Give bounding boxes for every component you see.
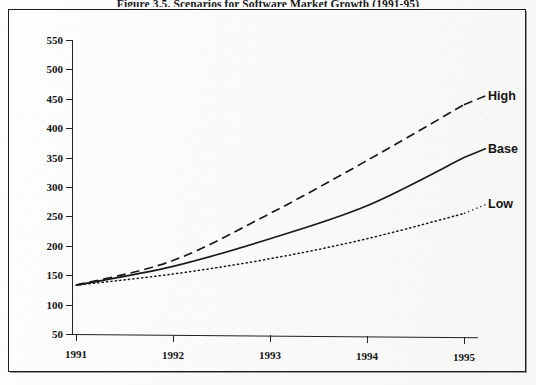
y-tick-label: 500: [47, 63, 64, 75]
x-tick-label: 1992: [162, 349, 184, 361]
y-tick: [66, 334, 72, 335]
x-tick-label: 1991: [65, 348, 87, 360]
x-tick: [270, 335, 271, 342]
series-lines: [72, 40, 478, 334]
y-tick-label: 200: [47, 240, 64, 252]
y-tick-label: 100: [47, 299, 64, 311]
x-tick: [173, 335, 174, 342]
y-tick-label: 50: [52, 328, 63, 340]
x-tick: [367, 336, 368, 343]
x-tick-label: 1995: [453, 351, 475, 363]
y-tick-label: 150: [47, 269, 64, 281]
figure-container: Figure 3.5. Scenarios for Software Marke…: [0, 0, 536, 385]
x-tick-label: 1993: [259, 349, 281, 361]
x-tick: [76, 334, 77, 341]
y-tick-label: 250: [47, 210, 64, 222]
series-label-high: High: [488, 89, 516, 103]
series-label-low: Low: [488, 197, 513, 211]
y-tick-label: 400: [47, 122, 64, 134]
y-tick-label: 350: [47, 152, 64, 164]
y-tick-label: 450: [47, 93, 64, 105]
series-line-base: [76, 158, 464, 286]
x-tick-label: 1994: [356, 350, 378, 362]
y-tick-label: 300: [47, 181, 64, 193]
figure-caption: Figure 3.5. Scenarios for Software Marke…: [0, 0, 536, 7]
series-line-high: [76, 105, 464, 286]
x-tick: [464, 337, 465, 344]
y-tick-label: 550: [47, 34, 64, 46]
series-label-base: Base: [488, 142, 518, 156]
plot-area: 50100150200250300350400450500550 1991199…: [72, 40, 478, 334]
figure-caption-text: Figure 3.5. Scenarios for Software Marke…: [117, 0, 419, 7]
